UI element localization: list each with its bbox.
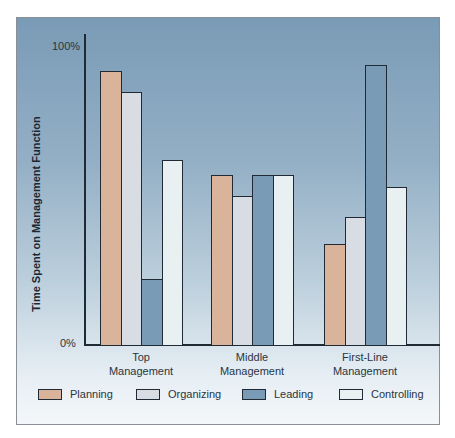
legend-swatch-planning: [38, 389, 62, 400]
legend-item-controlling: Controlling: [339, 388, 424, 400]
legend-item-leading: Leading: [242, 388, 313, 400]
y-axis-title: Time Spent on Management Function: [30, 116, 42, 311]
bar-first-line-controlling: [386, 187, 408, 345]
legend-swatch-organizing: [136, 389, 160, 400]
bar-middle-leading: [252, 175, 274, 345]
y-tick-100: 100%: [52, 40, 80, 52]
legend-item-organizing: Organizing: [136, 388, 221, 400]
bar-middle-controlling: [273, 175, 295, 345]
bar-middle-organizing: [232, 196, 254, 345]
y-axis-line: [84, 34, 86, 346]
legend-label: Planning: [70, 388, 113, 400]
category-line: Top: [86, 350, 196, 364]
category-label-middle: Middle Management: [197, 350, 307, 378]
bar-top-leading: [141, 279, 163, 345]
bar-top-organizing: [121, 92, 143, 345]
bar-first-line-leading: [365, 65, 387, 345]
legend-swatch-controlling: [339, 389, 363, 400]
bar-first-line-planning: [324, 244, 346, 345]
legend-item-planning: Planning: [38, 388, 113, 400]
legend-label: Controlling: [371, 388, 424, 400]
legend: Planning Organizing Leading Controlling: [16, 388, 440, 412]
category-label-first-line: First-Line Management: [310, 350, 420, 378]
category-line: Management: [197, 364, 307, 378]
bar-top-controlling: [162, 160, 184, 345]
category-line: Management: [310, 364, 420, 378]
category-line: First-Line: [310, 350, 420, 364]
legend-label: Organizing: [168, 388, 221, 400]
category-line: Management: [86, 364, 196, 378]
legend-swatch-leading: [242, 389, 266, 400]
category-label-top: Top Management: [86, 350, 196, 378]
bar-middle-planning: [211, 175, 233, 345]
legend-label: Leading: [274, 388, 313, 400]
category-line: Middle: [197, 350, 307, 364]
bar-first-line-organizing: [345, 217, 367, 345]
bar-top-planning: [100, 71, 122, 345]
y-tick-0: 0%: [60, 337, 76, 349]
